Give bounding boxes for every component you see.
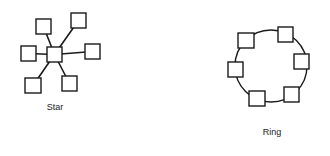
ring-topology <box>228 27 309 106</box>
star-node <box>62 76 77 91</box>
star-node <box>25 78 41 93</box>
star-node <box>85 44 100 59</box>
ring-node <box>294 54 309 69</box>
ring-label: Ring <box>263 127 282 137</box>
star-hub <box>47 47 62 62</box>
star-label: Star <box>47 102 64 112</box>
ring-node <box>249 91 265 106</box>
star-node <box>71 13 86 28</box>
star-node <box>21 46 36 61</box>
ring-node <box>228 62 243 77</box>
ring-node <box>284 87 299 102</box>
star-topology <box>21 13 100 93</box>
ring-node <box>238 33 254 48</box>
star-node <box>36 19 51 34</box>
ring-node <box>278 27 293 42</box>
